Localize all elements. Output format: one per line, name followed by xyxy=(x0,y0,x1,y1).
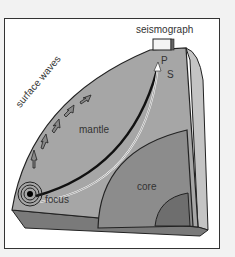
core-label: core xyxy=(137,182,156,192)
s-wave-label: S xyxy=(167,70,174,80)
p-wave-label: P xyxy=(161,56,168,66)
mantle-label: mantle xyxy=(79,125,109,135)
earth-cross-section xyxy=(0,0,235,257)
focus-label: focus xyxy=(45,195,69,205)
seismograph-icon xyxy=(153,39,171,50)
seismograph-label: seismograph xyxy=(136,25,193,35)
